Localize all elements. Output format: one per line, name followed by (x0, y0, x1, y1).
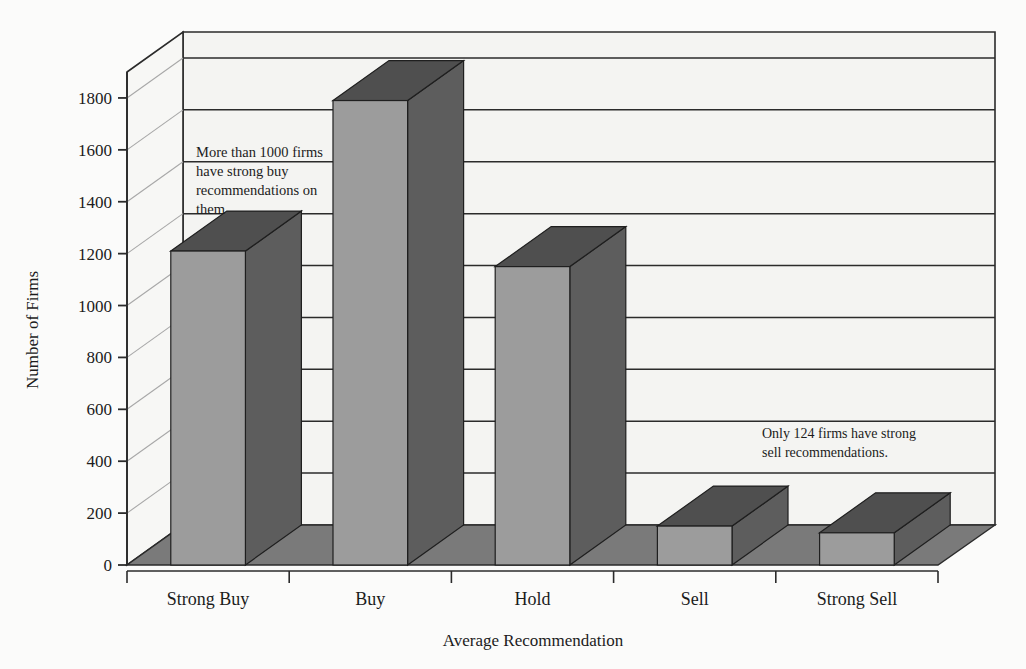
y-tick-label: 600 (87, 400, 113, 419)
y-tick-label: 1000 (78, 297, 112, 316)
annotation-line: them (196, 201, 226, 217)
bar-chart-3d: 020040060080010001200140016001800 Strong… (0, 0, 1026, 669)
bar-front-face (171, 251, 246, 565)
y-tick-label: 1600 (78, 141, 112, 160)
bar-side-face (245, 211, 301, 565)
y-tick-label: 200 (87, 504, 113, 523)
bar-hold[interactable] (495, 227, 626, 565)
chart-container: 020040060080010001200140016001800 Strong… (0, 0, 1026, 669)
y-tick-label: 1400 (78, 193, 112, 212)
bar-buy[interactable] (333, 61, 464, 565)
y-tick-label: 1800 (78, 89, 112, 108)
x-axis-title: Average Recommendation (443, 631, 624, 650)
bar-side-face (570, 227, 626, 565)
bar-front-face (657, 526, 732, 565)
x-axis-ticks (127, 571, 938, 583)
x-tick-label: Buy (355, 589, 385, 609)
annotation-line: recommendations on (196, 182, 318, 198)
annotation-line: have strong buy (196, 163, 289, 179)
annotation-line: More than 1000 firms (196, 144, 323, 160)
y-tick-label: 400 (87, 452, 113, 471)
bar-front-face (495, 267, 570, 565)
bar-front-face (333, 101, 408, 565)
bar-side-face (408, 61, 464, 565)
bar-strong-buy[interactable] (171, 211, 302, 565)
x-tick-label: Strong Sell (817, 589, 898, 609)
y-tick-label: 0 (104, 556, 113, 575)
x-tick-label: Sell (681, 589, 709, 609)
annotation-line: Only 124 firms have strong (762, 426, 916, 441)
y-axis-ticks: 020040060080010001200140016001800 (78, 89, 127, 575)
y-tick-label: 1200 (78, 245, 112, 264)
annotation-line: sell recommendations. (762, 445, 888, 460)
y-tick-label: 800 (87, 348, 113, 367)
x-tick-labels: Strong BuyBuyHoldSellStrong Sell (167, 589, 897, 609)
y-axis-title: Number of Firms (23, 271, 42, 389)
bar-front-face (820, 533, 895, 565)
x-tick-label: Strong Buy (167, 589, 250, 609)
x-tick-label: Hold (515, 589, 551, 609)
